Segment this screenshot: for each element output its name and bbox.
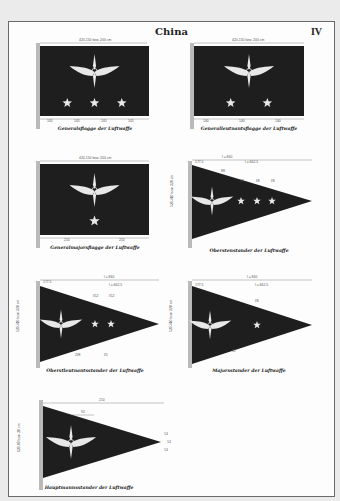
length-label: 210 [99, 398, 105, 402]
flag-drawing: 210 92 14 14 14 120-80 bzw. 30 cm [9, 390, 189, 498]
sub-label: 210 [64, 238, 70, 242]
sub-label: 88 [221, 169, 225, 173]
sub-label: 210 [119, 238, 125, 242]
sub-label: l/5 [104, 353, 108, 357]
document-page: China IV 420-150 bzw. 200 cm 105 105 105… [8, 21, 335, 497]
figure-caption: Hauptmannsstander der Luftwaffe [45, 485, 134, 490]
figure-caption: Oberstleutnantsstander der Luftwaffe [46, 368, 143, 373]
inner-label: l = 662.5 [109, 283, 122, 287]
sub-label: 105 [101, 119, 107, 123]
sub-label: 14 [164, 432, 168, 436]
length-label: l = 840 [104, 275, 114, 279]
length-label: l = 840 [247, 275, 257, 279]
height-label: 520-410 bzw. 320 cm [169, 300, 173, 332]
figure-caption: Generalleutnantsflagge der Luftwaffe [201, 126, 297, 131]
sub-label: 105 [128, 119, 134, 123]
figure-generalsflagge: 420-150 bzw. 200 cm 105 105 105 105 Gene… [9, 22, 172, 147]
width-label: 420-150 bzw. 200 cm [79, 38, 111, 42]
pennant-field [192, 286, 312, 364]
sub-label: l/12 [93, 294, 99, 298]
sub-label: l/8 [255, 299, 259, 303]
figure-generalleutnantsflagge: 420-150 bzw. 200 cm 140 140 140 Generall… [167, 22, 332, 147]
sub-label: l/2 [232, 349, 236, 353]
offset-label: 177.5 [195, 160, 204, 164]
figure-caption: Generalsflagge der Luftwaffe [58, 126, 133, 131]
width-label: 420-150 bzw. 200 cm [232, 38, 264, 42]
width-label: 420-150 bzw. 200 cm [79, 156, 111, 160]
height-label: 520-410 bzw. 320 cm [170, 175, 174, 207]
sub-label: 105 [47, 119, 53, 123]
figure-oberstenstander: l = 840 l = 662.5 177.5 88 l/8 l/8 l/8 5… [167, 150, 332, 265]
sub-label: 140 [239, 119, 245, 123]
sub-label: 14 [164, 448, 168, 452]
sub-label: 105 [74, 119, 80, 123]
sub-label: l/8 [240, 179, 244, 183]
sub-label: 140 [203, 119, 209, 123]
figure-hauptmannsstander: 210 92 14 14 14 120-80 bzw. 30 cm Hauptm… [9, 390, 189, 498]
sub-label: l/12 [109, 294, 115, 298]
figure-majorsstander: l = 840 l = 662.5 177.5 l/8 l/2 520-410 … [167, 270, 332, 385]
inner-label: l = 662.5 [255, 283, 268, 287]
sub-label: 14 [167, 440, 171, 444]
length-label: l = 840 [222, 155, 232, 159]
sub-label: l/8 [271, 179, 275, 183]
figure-oberstleutnantsstander: l = 840 l = 662.5 177.5 l/12 l/12 2l/8 l… [9, 270, 172, 385]
figure-caption: Generalmajorsflagge der Luftwaffe [50, 245, 140, 250]
figure-generalmajorsflagge: 420-150 bzw. 200 cm 210 210 Generalmajor… [9, 150, 172, 265]
sub-label: 140 [275, 119, 281, 123]
figure-caption: Majorsstander der Luftwaffe [212, 368, 285, 373]
sub-label: 2l/8 [75, 353, 81, 357]
height-label: 120-80 bzw. 30 cm [17, 423, 21, 452]
height-label: 520-410 bzw. 320 cm [16, 300, 20, 332]
inner-label: 92 [81, 410, 85, 414]
offset-label: 177.5 [195, 283, 204, 287]
sub-label: l/8 [256, 179, 260, 183]
inner-label: l = 662.5 [245, 160, 258, 164]
offset-label: 177.5 [43, 280, 52, 284]
figure-caption: Oberstenstander der Luftwaffe [209, 248, 288, 253]
